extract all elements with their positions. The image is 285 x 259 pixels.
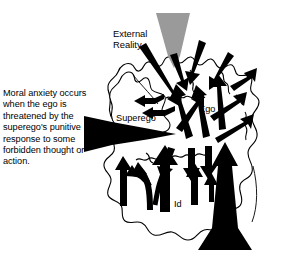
label-ego: Ego: [199, 104, 215, 115]
ego-leader-line: [252, 166, 257, 222]
top-caption: environment.: [94, 0, 279, 3]
left-caption: Moral anxiety occurs when the ego is thr…: [3, 88, 101, 168]
label-external-reality: External Reality: [113, 28, 147, 50]
label-superego: Superego: [116, 113, 156, 124]
diagram-canvas: environment. Moral anxiety occurs when t…: [0, 0, 285, 259]
label-id: Id: [174, 199, 182, 210]
